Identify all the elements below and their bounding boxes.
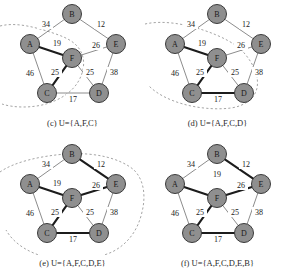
graph-node-label-E: E [114,40,119,49]
graph-node-label-C: C [189,229,194,238]
edge-weight-A-F: 19 [198,39,206,48]
graph-node-label-F: F [215,194,220,203]
edge-weight-A-C: 46 [26,208,34,217]
edge-weight-F-D: 25 [231,207,239,216]
edge-weight-B-E: 12 [242,20,250,29]
edge-weight-E-D: 38 [255,207,263,216]
edge-weight-C-D: 17 [69,234,77,243]
graph-node-label-C: C [189,89,194,98]
edge-weight-F-D: 25 [86,68,94,77]
edge-weight-B-E: 12 [97,20,105,29]
graph-edge-A-F [184,47,208,55]
edge-weight-F-C: 25 [196,68,204,77]
graph-node-label-C: C [44,229,49,238]
panel-caption-e: (e) U={A,F,C,D,E} [0,258,145,268]
edge-weight-A-F: 19 [213,169,221,178]
graph-node-label-D: D [241,89,247,98]
graph-panel-c: 341219264625253817BAEFCD(c) U={A,F,C} [0,0,145,139]
graph-panel-f: 341219264625253817BAEFCD(f) U={A,F,C,D,E… [145,140,290,279]
edge-weight-F-C: 25 [51,207,59,216]
panel-caption-c: (c) U={A,F,C} [0,118,145,128]
edge-weight-F-D: 25 [86,207,94,216]
edge-weight-C-D: 17 [69,95,77,104]
graph-panel-e: 341219264625253817BAEFCD(e) U={A,F,C,D,E… [0,140,145,279]
edge-weight-A-F: 19 [53,178,61,187]
edge-weight-A-B: 34 [187,20,195,29]
edge-weight-E-D: 38 [110,207,118,216]
edge-weight-A-F: 19 [53,39,61,48]
graph-node-label-D: D [96,229,102,238]
graph-node-label-A: A [27,180,33,189]
edge-weight-A-C: 46 [171,208,179,217]
edge-weight-F-D: 25 [231,68,239,77]
graph-node-label-E: E [259,40,264,49]
edge-weight-F-E: 26 [237,41,245,50]
graph-node-label-F: F [215,54,220,63]
edge-weight-A-B: 34 [42,20,50,29]
edge-weight-E-D: 38 [255,68,263,77]
panel-caption-d: (d) U={A,F,C,D} [145,118,290,128]
graph-node-label-B: B [69,10,74,19]
edge-weight-F-E: 26 [237,180,245,189]
figure-mst-stages: 341219264625253817BAEFCD(c) U={A,F,C}341… [0,0,290,279]
edge-weight-F-C: 25 [196,207,204,216]
graph-edge-A-F [39,47,63,55]
graph-node-label-F: F [70,194,75,203]
graph-node-label-E: E [114,180,119,189]
graph-node-label-D: D [241,229,247,238]
graph-node-label-E: E [259,180,264,189]
graph-node-label-B: B [214,10,219,19]
graph-node-label-A: A [27,40,33,49]
graph-node-label-B: B [214,150,219,159]
graph-edge-A-F [39,187,63,195]
graph-node-label-C: C [44,89,49,98]
panel-caption-f: (f) U={A,F,C,D,E,B} [145,258,290,268]
edge-weight-F-E: 26 [92,41,100,50]
edge-weight-E-D: 38 [110,68,118,77]
edge-weight-A-B: 34 [187,159,195,168]
graph-node-label-A: A [172,180,178,189]
graph-node-label-A: A [172,40,178,49]
edge-weight-A-B: 34 [42,159,50,168]
edge-weight-B-E: 12 [242,159,250,168]
graph-edge-A-F [184,187,208,195]
edge-weight-A-C: 46 [171,69,179,78]
edge-weight-A-C: 46 [26,69,34,78]
edge-weight-C-D: 17 [214,95,222,104]
edge-weight-C-D: 17 [214,234,222,243]
edge-weight-B-E: 12 [97,159,105,168]
graph-node-label-F: F [70,54,75,63]
graph-panel-d: 341219264625253817BAEFCD(d) U={A,F,C,D} [145,0,290,139]
graph-node-label-B: B [69,150,74,159]
graph-node-label-D: D [96,89,102,98]
edge-weight-F-E: 26 [92,180,100,189]
edge-weight-F-C: 25 [51,68,59,77]
